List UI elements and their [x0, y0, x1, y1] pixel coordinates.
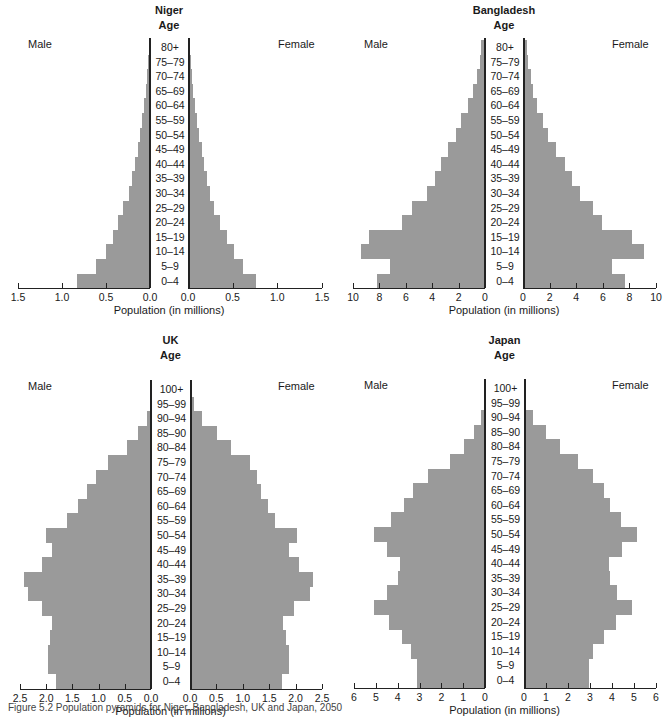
- female-bar: [525, 454, 578, 469]
- age-label: 35–39: [153, 572, 190, 587]
- x-tick: [656, 283, 657, 288]
- x-axis-title: Population (in millions): [114, 304, 225, 316]
- age-label: 45–49: [153, 543, 190, 558]
- female-bar: [525, 542, 622, 557]
- female-bar: [524, 98, 537, 113]
- x-tick-label: 4: [573, 291, 579, 303]
- x-tick: [603, 283, 604, 288]
- age-label: 15–19: [487, 230, 523, 245]
- age-label: 50–54: [487, 527, 524, 542]
- x-tick-label: 4: [609, 691, 615, 703]
- age-label: 40–44: [152, 157, 188, 172]
- x-tick-label: 0: [482, 291, 488, 303]
- x-tick: [398, 683, 399, 688]
- age-label: 55–59: [152, 113, 188, 128]
- x-tick-label: 1.0: [55, 291, 70, 303]
- female-x-axis: [523, 288, 656, 289]
- x-tick-label: 4: [429, 291, 435, 303]
- male-bar: [127, 440, 151, 455]
- male-bar: [412, 201, 485, 216]
- age-label: 10–14: [152, 244, 188, 259]
- x-tick: [188, 283, 189, 288]
- male-bar: [389, 615, 485, 630]
- male-bar: [56, 674, 151, 689]
- male-bar: [464, 439, 485, 454]
- male-bar: [48, 645, 151, 660]
- age-label: 95–99: [487, 396, 524, 411]
- age-label: 75–79: [152, 55, 188, 70]
- male-bar: [387, 542, 485, 557]
- age-label: 10–14: [153, 645, 190, 660]
- female-bar: [524, 157, 565, 172]
- x-tick: [406, 283, 407, 288]
- age-label: 35–39: [487, 571, 524, 586]
- x-tick-label: 0: [482, 691, 488, 703]
- x-tick: [62, 283, 63, 288]
- age-label: 75–79: [487, 454, 524, 469]
- figure-caption: Figure 5.2 Population pyramids for Niger…: [8, 702, 342, 713]
- female-label: Female: [612, 38, 649, 50]
- age-label: 55–59: [487, 113, 523, 128]
- male-bar: [96, 259, 150, 274]
- age-label: 25–29: [487, 201, 523, 216]
- male-bar: [400, 556, 485, 571]
- x-tick: [420, 683, 421, 688]
- x-tick-label: 8: [376, 291, 382, 303]
- age-label: 5–9: [152, 259, 188, 274]
- female-bar: [189, 128, 199, 143]
- age-label: 0–4: [487, 274, 523, 289]
- x-tick-label: 2: [565, 691, 571, 703]
- x-tick: [353, 283, 354, 288]
- female-bar: [524, 128, 548, 143]
- x-tick-label: 0.0: [143, 291, 158, 303]
- female-bar: [191, 484, 261, 499]
- x-tick: [296, 684, 297, 689]
- female-bar: [189, 274, 256, 289]
- female-x-axis: [190, 689, 322, 690]
- female-label: Female: [278, 380, 315, 392]
- female-bar: [525, 600, 632, 615]
- x-tick: [190, 684, 191, 689]
- female-bar: [191, 499, 268, 514]
- age-labels: 80+75–7970–7465–6960–6455–5950–5445–4940…: [152, 40, 188, 288]
- female-bar: [191, 440, 231, 455]
- female-bar: [525, 673, 589, 688]
- age-label: 30–34: [152, 186, 188, 201]
- age-label: 5–9: [153, 659, 190, 674]
- female-bar: [524, 201, 593, 216]
- age-label: 70–74: [152, 69, 188, 84]
- age-label: 60–64: [152, 98, 188, 113]
- age-labels: 80+75–7970–7465–6960–6455–5950–5445–4940…: [487, 40, 523, 288]
- female-bar: [189, 244, 234, 259]
- female-bar: [191, 645, 289, 660]
- female-bar: [191, 455, 250, 470]
- x-tick: [576, 283, 577, 288]
- male-axis-line: [484, 379, 486, 688]
- female-bar: [525, 512, 621, 527]
- female-bar: [189, 142, 202, 157]
- x-tick: [568, 683, 569, 688]
- chart-title: Bangladesh: [425, 4, 583, 16]
- male-bar: [417, 658, 485, 673]
- x-tick: [432, 283, 433, 288]
- age-label: 35–39: [487, 171, 523, 186]
- x-tick: [379, 283, 380, 288]
- age-label: 0–4: [152, 274, 188, 289]
- male-bar: [52, 543, 151, 558]
- male-bar: [411, 644, 485, 659]
- female-bar: [524, 84, 533, 99]
- age-axis-title: Age: [425, 349, 584, 361]
- age-label: 20–24: [487, 215, 523, 230]
- female-axis-line: [523, 38, 525, 288]
- male-bar: [132, 171, 150, 186]
- female-bar: [191, 616, 283, 631]
- age-label: 45–49: [152, 142, 188, 157]
- male-bar: [441, 157, 485, 172]
- female-bar: [191, 411, 202, 426]
- x-tick-label: 0.5: [225, 291, 240, 303]
- x-tick-label: 2: [438, 691, 444, 703]
- x-tick-label: 1: [543, 691, 549, 703]
- chart-title: Japan: [425, 334, 584, 346]
- age-axis-title: Age: [425, 19, 583, 31]
- x-tick: [546, 683, 547, 688]
